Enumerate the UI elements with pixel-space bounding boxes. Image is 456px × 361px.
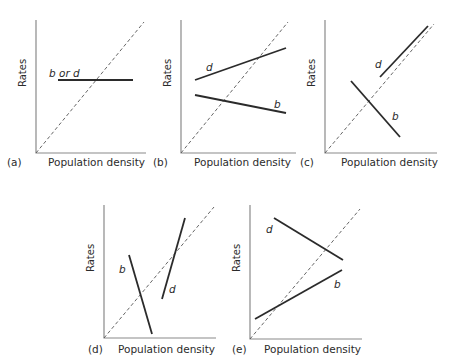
diagonal-reference-line bbox=[181, 22, 288, 153]
b-label: b bbox=[119, 263, 126, 275]
b-label: b bbox=[392, 110, 399, 122]
birth-rate-line bbox=[195, 95, 286, 113]
panel-d: b d Rates (d) Population density bbox=[85, 205, 216, 355]
birth-rate-line bbox=[255, 270, 342, 319]
panel-label: (d) bbox=[88, 343, 103, 355]
density-dependence-figure: b or d Rates (a) Population density d b … bbox=[0, 0, 456, 361]
birth-rate-line bbox=[129, 255, 152, 334]
death-rate-line bbox=[380, 26, 428, 77]
panel-c: d b Rates (c) Population density bbox=[300, 20, 438, 168]
diagonal-reference-line bbox=[325, 24, 434, 153]
d-label: d bbox=[206, 61, 213, 73]
axes bbox=[181, 20, 296, 153]
panel-label: (a) bbox=[7, 156, 22, 168]
d-label: d bbox=[375, 58, 382, 70]
panel-b: d b Rates (b) Population density bbox=[153, 20, 296, 168]
b-label: b bbox=[334, 278, 341, 290]
panel-label: (e) bbox=[232, 343, 247, 355]
panel-e: d b Rates (e) Population density bbox=[231, 205, 362, 355]
d-label: d bbox=[169, 283, 176, 295]
d-label: d bbox=[266, 223, 273, 235]
x-axis-label: Population density bbox=[118, 343, 215, 355]
death-rate-line bbox=[274, 218, 343, 260]
y-axis-label: Rates bbox=[231, 244, 242, 272]
y-axis-label: Rates bbox=[85, 244, 96, 272]
y-axis-label: Rates bbox=[17, 59, 28, 87]
x-axis-label: Population density bbox=[48, 156, 145, 168]
y-axis-label: Rates bbox=[306, 59, 317, 87]
b-or-d-label: b or d bbox=[49, 67, 80, 79]
b-label: b bbox=[274, 98, 281, 110]
panel-label: (c) bbox=[300, 156, 314, 168]
panel-label: (b) bbox=[153, 156, 168, 168]
panel-a: b or d Rates (a) Population density bbox=[7, 20, 146, 168]
x-axis-label: Population density bbox=[194, 156, 291, 168]
x-axis-label: Population density bbox=[264, 343, 361, 355]
birth-rate-line bbox=[351, 81, 400, 137]
x-axis-label: Population density bbox=[341, 156, 438, 168]
diagonal-reference-line bbox=[36, 22, 144, 153]
y-axis-label: Rates bbox=[162, 59, 173, 87]
